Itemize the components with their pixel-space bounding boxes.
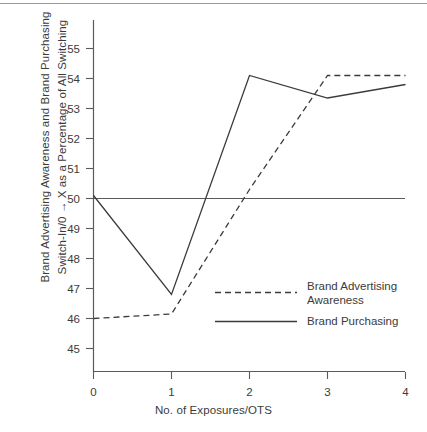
- y-tick-label-45: 45: [67, 343, 80, 355]
- chart-figure: 55 54 53 52 51 50 49 48 47 46 45: [0, 0, 427, 432]
- x-axis-tick-labels: 0 1 2 3 4: [90, 386, 409, 398]
- chart-legend: Brand Advertising Awareness Brand Purcha…: [215, 280, 398, 327]
- x-axis-ticks: [94, 372, 406, 379]
- x-tick-label-4: 4: [402, 386, 409, 398]
- series-line-brand-purchasing: [94, 76, 406, 295]
- y-axis-label-line1: Brand Advertising Awareness and Brand Pu…: [37, 0, 54, 297]
- chart-page: 55 54 53 52 51 50 49 48 47 46 45: [0, 0, 427, 432]
- legend-label-awareness-line1: Brand Advertising: [307, 280, 397, 292]
- legend-label-purchasing: Brand Purchasing: [307, 315, 398, 327]
- y-axis-ticks: [86, 49, 93, 349]
- y-tick-label-46: 46: [67, 313, 80, 325]
- x-tick-label-1: 1: [168, 386, 174, 398]
- x-tick-label-3: 3: [324, 386, 330, 398]
- x-tick-label-2: 2: [246, 386, 252, 398]
- x-axis-label: No. of Exposures/OTS: [0, 404, 427, 416]
- x-tick-label-0: 0: [90, 386, 96, 398]
- y-axis-label-line2: Switch-In/0 → X as a Percentage of All S…: [54, 0, 71, 297]
- legend-label-awareness-line2: Awareness: [307, 294, 364, 306]
- y-axis-label: Brand Advertising Awareness and Brand Pu…: [37, 0, 71, 297]
